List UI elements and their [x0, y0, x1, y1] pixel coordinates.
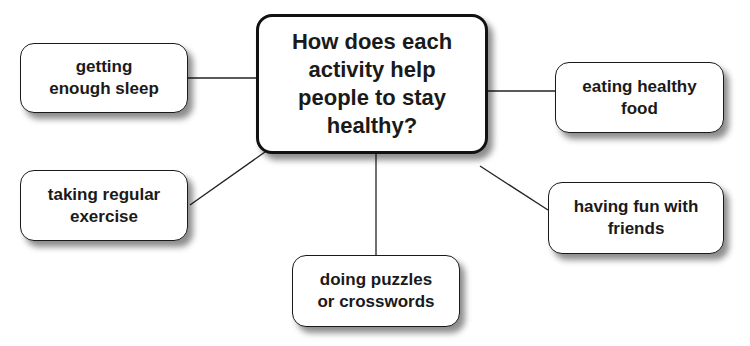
connector-exercise: [190, 152, 265, 205]
node-getting-enough-sleep: getting enough sleep: [20, 43, 188, 113]
node-taking-regular-exercise: taking regular exercise: [20, 170, 188, 241]
node-label-line: doing puzzles: [317, 269, 434, 291]
node-label-line: or crosswords: [317, 291, 434, 313]
node-label-line: getting: [49, 56, 159, 78]
central-question-line: people to stay: [292, 84, 452, 112]
central-question-line: How does each: [292, 28, 452, 56]
node-label-line: food: [582, 98, 696, 120]
node-having-fun-with-friends: having fun with friends: [548, 182, 724, 254]
node-label-line: eating healthy: [582, 76, 696, 98]
node-label-line: having fun with: [574, 196, 699, 218]
node-label-line: taking regular: [48, 184, 160, 206]
node-doing-puzzles: doing puzzles or crosswords: [292, 255, 460, 327]
node-eating-healthy-food: eating healthy food: [555, 62, 724, 133]
central-question-box: How does each activity help people to st…: [256, 14, 488, 154]
central-question-line: activity help: [292, 56, 452, 84]
central-question-line: healthy?: [292, 112, 452, 140]
node-label-line: friends: [574, 218, 699, 240]
connector-friends: [480, 166, 548, 210]
node-label-line: exercise: [48, 206, 160, 228]
node-label-line: enough sleep: [49, 78, 159, 100]
